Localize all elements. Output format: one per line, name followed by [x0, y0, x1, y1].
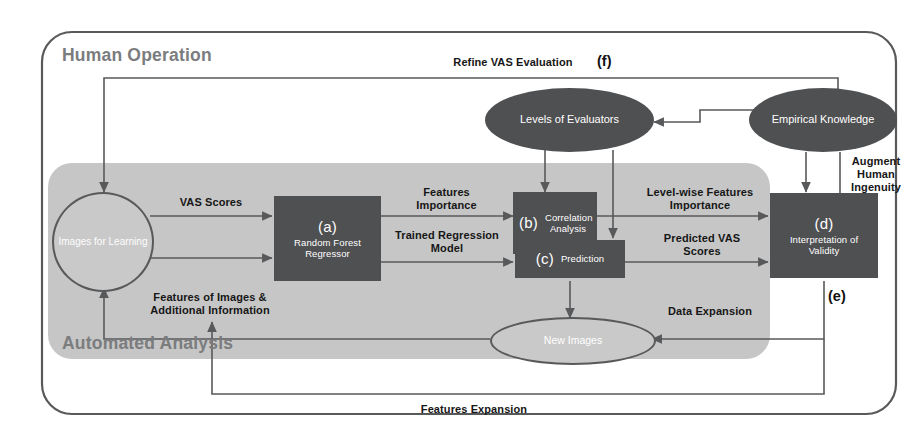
node-random-forest-regressor[interactable]: (a) Random Forest Regressor	[274, 196, 381, 281]
node-d-label: Interpretation of Validity	[778, 234, 870, 257]
node-b-tag: (b)	[519, 214, 538, 232]
zone-label-automated-analysis: Automated Analysis	[62, 333, 233, 354]
zone-label-human-operation: Human Operation	[62, 45, 212, 66]
node-a-label: Random Forest Regressor	[274, 237, 381, 260]
node-c-label: Prediction	[561, 253, 604, 264]
node-a-tag: (a)	[318, 218, 337, 236]
node-empirical-knowledge[interactable]: Empirical Knowledge	[749, 88, 897, 152]
callout-f: (f)	[597, 53, 612, 69]
node-images-for-learning[interactable]: Images for Learning	[52, 192, 154, 292]
node-new-images[interactable]: New Images	[490, 317, 656, 365]
node-d-tag: (d)	[815, 215, 834, 233]
diagram-canvas: Human Operation Automated Analysis Image…	[0, 0, 924, 438]
automated-analysis-region	[48, 163, 770, 359]
node-levels-of-evaluators[interactable]: Levels of Evaluators	[485, 88, 654, 152]
node-prediction[interactable]: (c) Prediction	[515, 240, 625, 278]
callout-e: (e)	[828, 288, 846, 304]
node-empirical-knowledge-label: Empirical Knowledge	[772, 113, 875, 127]
node-c-tag: (c)	[536, 250, 554, 268]
node-images-for-learning-label: Images for Learning	[59, 236, 148, 249]
node-new-images-label: New Images	[544, 334, 602, 347]
node-b-label: Correlation Analysis	[545, 212, 591, 235]
node-interpretation-of-validity[interactable]: (d) Interpretation of Validity	[770, 193, 878, 278]
node-levels-of-evaluators-label: Levels of Evaluators	[520, 113, 619, 127]
